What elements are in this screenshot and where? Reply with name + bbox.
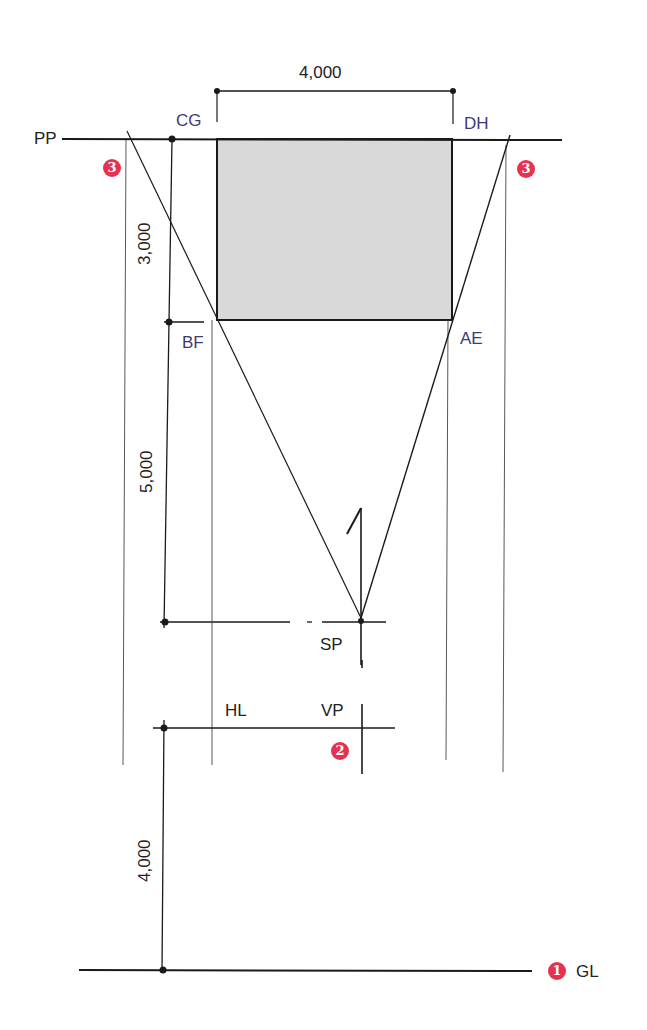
plan-rectangle [217, 139, 452, 320]
depth-dimension-line [164, 139, 172, 628]
vanishing-point-label: VP [321, 702, 344, 719]
corner-ae-label: AE [460, 330, 483, 347]
ground-line [79, 970, 532, 971]
station-point-label: SP [320, 636, 343, 653]
width-dimension-label: 4,000 [299, 64, 342, 81]
corner-dh-label: DH [464, 115, 489, 132]
drawing-canvas [0, 0, 647, 1030]
picture-plane-label: PP [34, 130, 57, 147]
corner-cg-label: CG [176, 112, 202, 129]
step-badge-vp: 2 [331, 742, 349, 760]
eye-height-label: 4,000 [136, 839, 153, 882]
ground-line-label: GL [576, 963, 599, 980]
corner-bf-label: BF [182, 334, 204, 351]
station-point [358, 618, 364, 624]
projection-line-right [503, 145, 506, 772]
picture-plane-line [62, 139, 562, 140]
projection-line-left [123, 140, 126, 765]
depth-dimension-label: 3,000 [136, 222, 153, 265]
horizon-line-label: HL [225, 702, 247, 719]
projection-line-ae [446, 320, 448, 760]
step-badge-right: 3 [517, 160, 535, 178]
step-badge-left: 3 [103, 159, 121, 177]
step-badge-ground: 1 [548, 962, 566, 980]
eye-height-dimension-line [162, 720, 164, 972]
distance-to-sp-label: 5,000 [138, 450, 155, 493]
